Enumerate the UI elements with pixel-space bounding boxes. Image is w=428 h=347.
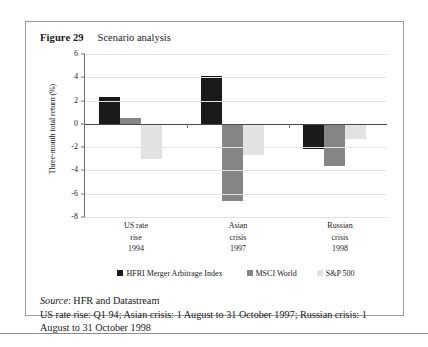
figure-footer: Source: HFR and Datastream US rate rise:… [40, 294, 391, 335]
gridline [85, 194, 387, 195]
legend-swatch-icon [317, 270, 323, 276]
y-axis-tick-labels: 6420-2-4-6-8 [58, 54, 78, 217]
legend-swatch-icon [247, 270, 253, 276]
x-axis-category-line: 1998 [289, 243, 391, 255]
y-axis-tick-label: -4 [71, 166, 78, 174]
x-axis-category-line: 1997 [187, 243, 289, 255]
bar [141, 124, 162, 159]
gridline [85, 77, 387, 78]
legend-label: S&P 500 [326, 269, 355, 278]
y-axis-tick-mark [81, 77, 85, 78]
figure-caption: Figure 29Scenario analysis [40, 32, 171, 43]
y-axis-tick-mark [81, 147, 85, 148]
source-text: : HFR and Datastream [68, 295, 159, 306]
x-axis-tick-mark [289, 124, 290, 128]
x-axis-category-label: Russiancrisis1998 [289, 220, 391, 255]
gridline [85, 147, 387, 148]
x-axis-category-line: Asian [187, 220, 289, 232]
bar [243, 124, 264, 155]
bars-layer [85, 54, 387, 217]
y-axis-tick-label: 2 [74, 97, 78, 105]
chart-area: Three-month total return (%) 6420-2-4-6-… [40, 54, 391, 286]
figure-title: Scenario analysis [98, 32, 171, 43]
source-word: Source [40, 295, 68, 306]
gridline [85, 101, 387, 102]
gridline [85, 217, 387, 218]
x-axis-category-line: 1994 [85, 243, 187, 255]
page-divider [0, 333, 428, 334]
y-axis-tick-mark [81, 100, 85, 101]
bar [324, 124, 345, 166]
legend-label: HFRI Merger Arbitrage Index [126, 269, 222, 278]
x-axis-category-line: Russian [289, 220, 391, 232]
y-axis-tick-label: 4 [74, 73, 78, 81]
chart-legend: HFRI Merger Arbitrage IndexMSCI WorldS&P… [85, 266, 387, 280]
x-axis-category-line: US rate [85, 220, 187, 232]
x-axis-category-line: rise [85, 232, 187, 244]
x-axis-category-labels: US raterise1994Asiancrisis1997Russiancri… [85, 220, 387, 262]
x-axis-category-label: Asiancrisis1997 [187, 220, 289, 255]
legend-swatch-icon [117, 270, 123, 276]
source-line: Source: HFR and Datastream [40, 294, 391, 308]
legend-item: HFRI Merger Arbitrage Index [117, 269, 222, 278]
x-axis-category-line: crisis [289, 232, 391, 244]
gridline [85, 54, 387, 55]
y-axis-tick-label: -8 [71, 213, 78, 221]
legend-item: MSCI World [247, 269, 297, 278]
y-axis-tick-label: 6 [74, 50, 78, 58]
legend-label: MSCI World [256, 269, 297, 278]
notes-line: US rate rise: Q1 94; Asian crisis: 1 Aug… [40, 308, 391, 335]
y-axis-tick-label: -2 [71, 143, 78, 151]
y-axis-tick-label: 0 [74, 120, 78, 128]
bar [345, 124, 366, 139]
figure-label: Figure 29 [40, 32, 84, 43]
bar [303, 124, 324, 150]
plot-region [84, 54, 387, 217]
bar [222, 124, 243, 201]
y-axis-tick-mark [81, 54, 85, 55]
figure-container: Figure 29Scenario analysis Three-month t… [25, 21, 404, 316]
x-axis-category-label: US raterise1994 [85, 220, 187, 255]
gridline [85, 170, 387, 171]
y-axis-tick-mark [81, 193, 85, 194]
x-axis-tick-mark [187, 124, 188, 128]
x-axis-category-line: crisis [187, 232, 289, 244]
zero-baseline [85, 124, 387, 125]
y-axis-tick-mark [81, 217, 85, 218]
y-axis-tick-label: -6 [71, 190, 78, 198]
y-axis-tick-mark [81, 170, 85, 171]
legend-item: S&P 500 [317, 269, 355, 278]
